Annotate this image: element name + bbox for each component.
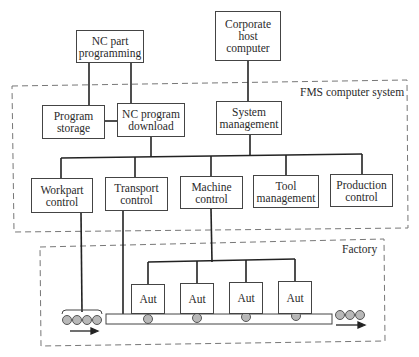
machine-aut-node: Aut: [180, 283, 214, 314]
pallet-icon: [336, 311, 345, 320]
machine-aut-node: Aut: [229, 282, 263, 314]
arrow-right-icon: [358, 322, 365, 328]
tool-management-node: Tool management: [253, 175, 319, 208]
nc-part-programming-node: NC part programming: [76, 30, 144, 63]
pallet-icon: [63, 316, 72, 325]
production-control-node: Production control: [330, 174, 393, 207]
pallet-icon: [193, 314, 202, 323]
system-management-node: System management: [216, 101, 282, 135]
arrow-right-icon: [91, 328, 98, 334]
pallet-icon: [93, 316, 102, 325]
machine-aut-node: Aut: [278, 281, 312, 314]
machine-control-node: Machine control: [180, 176, 243, 209]
workpart-control-node: Workpart control: [31, 178, 93, 213]
fms-region-label: FMS computer system: [300, 86, 404, 98]
pallet-icon: [144, 315, 153, 324]
transport-control-node: Transport control: [105, 177, 168, 211]
factory-region-label: Factory: [342, 243, 377, 255]
program-storage-node: Program storage: [42, 105, 105, 139]
pallet-icon: [346, 311, 355, 320]
machine-aut-node: Aut: [131, 284, 165, 314]
pallet-icon: [356, 311, 365, 320]
corporate-host-node: Corporate host computer: [215, 11, 281, 61]
pallet-icon: [73, 316, 82, 325]
pallet-icon: [83, 316, 92, 325]
nc-program-download-node: NC program download: [117, 103, 185, 137]
